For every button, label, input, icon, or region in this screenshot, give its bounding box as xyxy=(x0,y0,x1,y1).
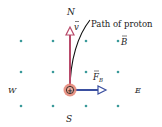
south-label: S xyxy=(66,114,72,124)
svg-text:B: B xyxy=(120,37,127,47)
proton-path xyxy=(70,20,90,90)
field-label: B xyxy=(120,36,127,47)
path-label: Path of proton xyxy=(91,19,153,29)
proton: + xyxy=(64,84,77,97)
force-arrow xyxy=(72,86,106,94)
west-label: W xyxy=(8,86,17,95)
velocity-label: v xyxy=(74,22,79,33)
diagram-canvas: + N S W E Path of proton v B F B xyxy=(0,0,162,127)
velocity-arrow xyxy=(66,27,74,88)
svg-text:B: B xyxy=(98,77,103,83)
svg-text:v: v xyxy=(74,22,79,32)
charge-label: + xyxy=(67,86,73,95)
east-label: E xyxy=(134,86,141,95)
force-label: F B xyxy=(92,71,103,83)
north-label: N xyxy=(66,7,76,17)
